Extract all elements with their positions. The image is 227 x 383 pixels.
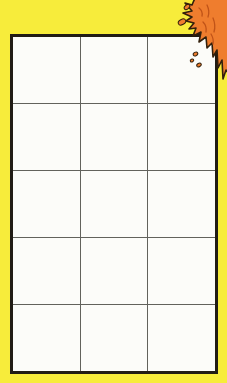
splat-droplet [177, 18, 187, 26]
grid-cell [148, 37, 215, 103]
splat-droplet [183, 3, 191, 10]
grid-cell [148, 171, 215, 237]
blank-grid [10, 34, 218, 374]
grid-cell [13, 104, 80, 170]
grid-cell [81, 171, 148, 237]
page-background [0, 0, 227, 383]
grid-cell [81, 37, 148, 103]
grid-cell [148, 104, 215, 170]
grid-cell [148, 305, 215, 371]
grid-cell [81, 305, 148, 371]
grid-cell [13, 37, 80, 103]
grid-cell [148, 238, 215, 304]
grid-cell [13, 171, 80, 237]
grid-cell [13, 305, 80, 371]
grid-cell [13, 238, 80, 304]
grid-cell [81, 238, 148, 304]
grid-cell [81, 104, 148, 170]
